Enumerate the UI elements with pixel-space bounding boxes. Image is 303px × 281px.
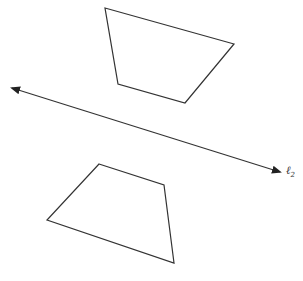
diagram-canvas bbox=[0, 0, 303, 281]
line-l2 bbox=[12, 88, 280, 172]
line-label: ℓ2 bbox=[286, 164, 295, 179]
bottom-quadrilateral bbox=[47, 164, 174, 263]
line-label-subscript: 2 bbox=[291, 171, 295, 179]
top-quadrilateral bbox=[105, 8, 234, 103]
